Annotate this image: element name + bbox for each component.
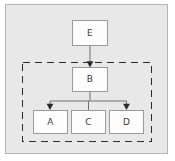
node-b-label: B <box>87 75 93 84</box>
node-c-label: C <box>85 118 91 127</box>
node-e-label: E <box>87 29 93 38</box>
node-b[interactable]: B <box>72 67 108 92</box>
node-a-label: A <box>47 118 53 127</box>
diagram-figure: E B A C D <box>0 0 175 161</box>
node-e[interactable]: E <box>72 20 108 46</box>
node-a[interactable]: A <box>33 110 68 134</box>
node-d-label: D <box>123 118 130 127</box>
node-c[interactable]: C <box>71 110 106 134</box>
node-d[interactable]: D <box>109 110 144 134</box>
